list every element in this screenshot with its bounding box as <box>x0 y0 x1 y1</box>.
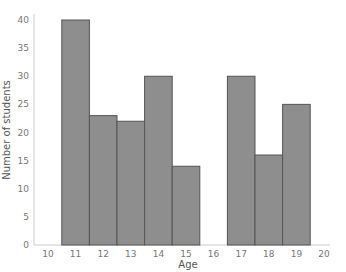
x-tick-label: 16 <box>208 249 220 259</box>
bar-age-13 <box>117 121 145 245</box>
y-axis-label: Number of students <box>1 80 12 180</box>
x-tick-label: 12 <box>97 249 108 259</box>
bar-age-11 <box>62 20 90 245</box>
y-tick-label: 35 <box>18 43 29 53</box>
y-tick-label: 40 <box>18 15 30 25</box>
x-tick-label: 18 <box>263 249 275 259</box>
bar-age-12 <box>89 116 117 245</box>
x-axis-label: Age <box>178 259 197 270</box>
y-tick-labels: 0510152025303540 <box>18 15 30 250</box>
x-tick-label: 19 <box>291 249 303 259</box>
y-tick-label: 20 <box>18 128 30 138</box>
bars <box>62 20 310 245</box>
x-tick-label: 11 <box>70 249 81 259</box>
bar-age-19 <box>283 104 311 245</box>
bar-age-18 <box>255 155 283 245</box>
y-tick-label: 25 <box>18 99 29 109</box>
x-tick-label: 13 <box>125 249 136 259</box>
y-tick-label: 10 <box>18 184 30 194</box>
x-tick-label: 14 <box>153 249 165 259</box>
x-tick-labels: 1011121314151617181920 <box>42 249 330 259</box>
y-tick-label: 15 <box>18 156 29 166</box>
y-tick-label: 0 <box>23 240 29 250</box>
x-tick-label: 10 <box>42 249 54 259</box>
bar-age-14 <box>145 76 173 245</box>
y-tick-label: 30 <box>18 71 30 81</box>
x-tick-label: 15 <box>180 249 191 259</box>
bar-age-15 <box>172 166 200 245</box>
x-tick-label: 17 <box>235 249 246 259</box>
y-tick-label: 5 <box>23 212 29 222</box>
x-tick-label: 20 <box>318 249 330 259</box>
bar-age-17 <box>227 76 255 245</box>
histogram-chart: 0510152025303540 1011121314151617181920 … <box>0 0 346 272</box>
